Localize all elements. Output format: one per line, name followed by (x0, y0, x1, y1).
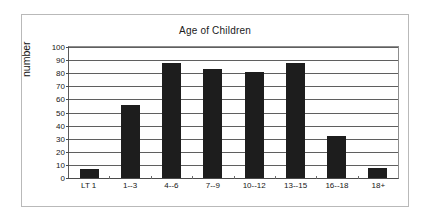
y-axis-title: number (20, 41, 32, 77)
y-tick-label: 60 (56, 95, 65, 104)
y-tick-label: 40 (56, 121, 65, 130)
bar (121, 105, 140, 178)
bar-slot (110, 47, 151, 178)
y-tick-label: 90 (56, 56, 65, 65)
bar-slot (275, 47, 316, 178)
y-tick-label: 0 (61, 174, 65, 183)
bar (203, 69, 222, 178)
bar (368, 168, 387, 178)
bar-slot (316, 47, 357, 178)
x-tick-mark (275, 176, 276, 179)
y-tick-label: 70 (56, 82, 65, 91)
chart-title: Age of Children (22, 25, 408, 36)
bar-slot (357, 47, 398, 178)
bar-slot (151, 47, 192, 178)
y-tick-label: 100 (52, 43, 65, 52)
x-tick-mark (358, 176, 359, 179)
bar (327, 136, 346, 178)
y-tick-label: 80 (56, 69, 65, 78)
x-tick-mark (234, 176, 235, 179)
bar (80, 169, 99, 178)
bar-slot (234, 47, 275, 178)
x-tick-mark (151, 176, 152, 179)
x-tick-mark (192, 176, 193, 179)
y-tick-label: 50 (56, 108, 65, 117)
bar-series (69, 47, 398, 178)
x-tick-label: 16--18 (316, 181, 357, 190)
y-tick-label: 30 (56, 134, 65, 143)
plot-area: 1009080706050403020100 (68, 46, 399, 179)
chart-frame: Age of Children number 10090807060504030… (21, 14, 409, 207)
y-tick-label: 20 (56, 147, 65, 156)
bar (162, 63, 181, 178)
y-tick-mark (66, 178, 69, 179)
x-tick-label: 18+ (358, 181, 399, 190)
x-tick-mark (316, 176, 317, 179)
x-tick-label: 1--3 (109, 181, 150, 190)
bar (286, 63, 305, 178)
x-tick-label: 10--12 (234, 181, 275, 190)
bar (245, 72, 264, 178)
x-tick-label: 4--6 (151, 181, 192, 190)
x-axis-labels: LT 11--34--67--910--1213--1516--1818+ (68, 181, 399, 190)
x-tick-label: 7--9 (192, 181, 233, 190)
x-tick-label: LT 1 (68, 181, 109, 190)
x-tick-label: 13--15 (275, 181, 316, 190)
y-tick-label: 10 (56, 160, 65, 169)
bar-slot (192, 47, 233, 178)
bar-slot (69, 47, 110, 178)
x-tick-mark (109, 176, 110, 179)
